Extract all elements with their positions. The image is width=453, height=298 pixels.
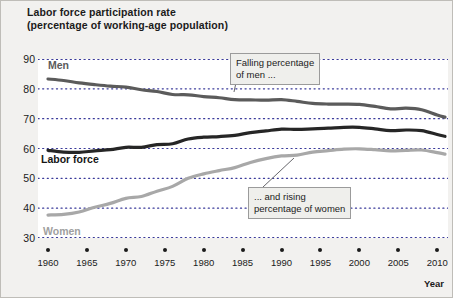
annotation-men-line1: Falling percentage: [236, 57, 314, 69]
x-axis-tick-mark: [318, 248, 322, 252]
x-axis-tick-mark: [241, 248, 245, 252]
x-axis-tick-label: 1975: [148, 258, 182, 268]
series-line-women: [48, 149, 445, 215]
chart-title-line1: Labor force participation rate: [27, 6, 176, 18]
x-axis-tick-mark: [124, 248, 128, 252]
y-axis-tick-label: 30: [11, 233, 35, 243]
plot-area: [38, 59, 448, 238]
x-axis-tick-mark: [280, 248, 284, 252]
x-axis-tick-mark: [163, 248, 167, 252]
annotation-women-line1: ... and rising: [254, 191, 345, 203]
x-axis-tick-label: 1970: [109, 258, 143, 268]
x-axis-tick-mark: [396, 248, 400, 252]
annotation-men-line2: of men ...: [236, 69, 314, 81]
y-axis-tick-label: 50: [11, 173, 35, 183]
x-axis-tick-label: 2010: [420, 258, 453, 268]
x-axis-tick-label: 2005: [381, 258, 415, 268]
annotation-women: ... and rising percentage of women: [248, 187, 351, 219]
x-axis-tick-label: 1965: [70, 258, 104, 268]
annotation-men: Falling percentage of men ...: [230, 53, 320, 85]
x-axis-tick-label: 1995: [303, 258, 337, 268]
x-axis-tick-label: 1985: [226, 258, 260, 268]
y-axis-tick-label: 70: [11, 114, 35, 124]
annotation-women-line2: percentage of women: [254, 203, 345, 215]
x-axis-tick-mark: [85, 248, 89, 252]
x-axis-tick-label: 2000: [342, 258, 376, 268]
x-axis-tick-label: 1990: [265, 258, 299, 268]
x-axis-tick-label: 1960: [31, 258, 65, 268]
series-label-labor-force: Labor force: [41, 153, 99, 165]
x-axis-tick-mark: [202, 248, 206, 252]
plot-svg: [38, 59, 448, 238]
women-callout-leader-line: [263, 158, 294, 187]
chart-title-line2: (percentage of working-age population): [27, 19, 228, 32]
x-axis-tick-mark: [46, 248, 50, 252]
x-axis-tick-label: 1980: [187, 258, 221, 268]
y-axis-tick-label: 40: [11, 203, 35, 213]
series-lines: [48, 79, 445, 215]
y-axis-tick-label: 80: [11, 84, 35, 94]
y-axis-tick-label: 60: [11, 144, 35, 154]
x-axis-tick-mark: [357, 248, 361, 252]
x-axis-title: Year: [424, 278, 444, 289]
chart-title: Labor force participation rate (percenta…: [27, 6, 228, 32]
chart-figure: Labor force participation rate (percenta…: [0, 0, 453, 298]
y-axis-tick-label: 90: [11, 54, 35, 64]
x-axis-tick-mark: [435, 248, 439, 252]
series-label-women: Women: [43, 225, 81, 237]
series-label-men: Men: [48, 59, 69, 71]
y-axis: 90807060504030: [5, 1, 35, 298]
